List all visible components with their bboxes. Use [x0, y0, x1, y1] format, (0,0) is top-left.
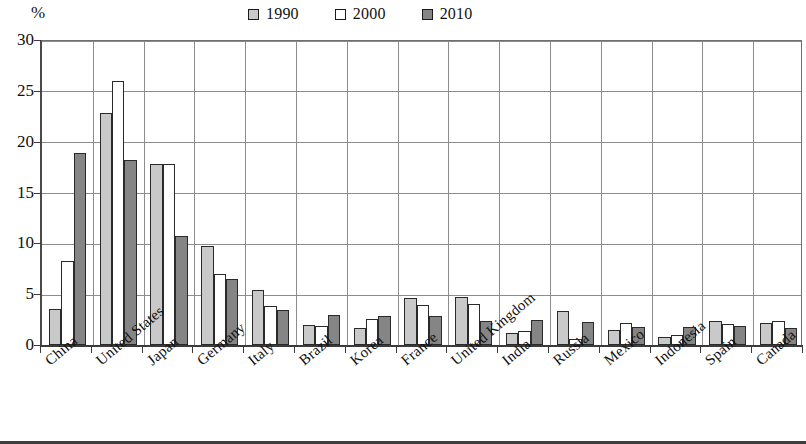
bar	[277, 310, 289, 345]
bar	[455, 297, 467, 345]
legend-entry: 2010	[422, 6, 473, 22]
y-axis-tick-mark	[34, 40, 41, 41]
gridline-vertical	[194, 41, 195, 345]
bar	[49, 309, 61, 345]
x-axis-tick-mark	[650, 345, 651, 353]
bar	[112, 81, 124, 345]
x-axis-tick-mark	[599, 345, 600, 353]
chart-legend: 199020002010	[248, 4, 472, 24]
plot-area	[40, 40, 802, 345]
legend-swatch-icon	[335, 9, 346, 20]
gridline-vertical	[550, 41, 551, 345]
y-axis-tick-mark	[34, 294, 41, 295]
gridline-vertical	[144, 41, 145, 345]
y-axis-tick-label: 0	[0, 335, 34, 355]
y-axis-tick-label: 5	[0, 284, 34, 304]
gridline-horizontal	[42, 41, 801, 42]
gridline-vertical	[93, 41, 94, 345]
bar	[74, 153, 86, 345]
y-axis-tick-mark	[34, 91, 41, 92]
gridline-horizontal	[42, 142, 801, 143]
gridline-vertical	[652, 41, 653, 345]
y-axis-tick-mark	[34, 193, 41, 194]
gridline-vertical	[601, 41, 602, 345]
bar	[404, 298, 416, 345]
x-axis-tick-mark	[91, 345, 92, 353]
bar	[531, 320, 543, 345]
gridline-vertical	[702, 41, 703, 345]
y-axis-tick-label: 10	[0, 233, 34, 253]
legend-label: 2010	[440, 6, 473, 22]
gridline-horizontal	[42, 91, 801, 92]
legend-swatch-icon	[248, 9, 259, 20]
x-axis-tick-mark	[396, 345, 397, 353]
gridline-vertical	[448, 41, 449, 345]
bar	[100, 113, 112, 345]
x-axis-tick-mark	[294, 345, 295, 353]
x-axis-tick-mark	[548, 345, 549, 353]
bar	[175, 236, 187, 345]
x-axis-tick-mark	[40, 345, 41, 353]
x-axis-tick-mark	[446, 345, 447, 353]
legend-entry: 1990	[248, 6, 299, 22]
bar	[61, 261, 73, 345]
x-axis-tick-mark	[142, 345, 143, 353]
bar	[124, 160, 136, 345]
y-axis-tick-mark	[34, 142, 41, 143]
y-axis-tick-label: 15	[0, 183, 34, 203]
legend-swatch-icon	[422, 9, 433, 20]
legend-entry: 2000	[335, 6, 386, 22]
x-axis-tick-mark	[700, 345, 701, 353]
x-axis-tick-mark	[751, 345, 752, 353]
legend-label: 1990	[266, 6, 299, 22]
y-axis-tick-label: 20	[0, 132, 34, 152]
x-axis-tick-mark	[192, 345, 193, 353]
bar-chart: % 199020002010 051015202530 ChinaUnited …	[0, 0, 806, 444]
x-axis-tick-mark	[802, 345, 803, 353]
y-axis-tick-label: 25	[0, 81, 34, 101]
y-axis-tick-label: 30	[0, 30, 34, 50]
gridline-vertical	[398, 41, 399, 345]
gridline-vertical	[296, 41, 297, 345]
legend-label: 2000	[353, 6, 386, 22]
gridline-vertical	[347, 41, 348, 345]
x-axis-tick-mark	[345, 345, 346, 353]
bar	[252, 290, 264, 345]
gridline-vertical	[499, 41, 500, 345]
x-axis-tick-mark	[497, 345, 498, 353]
gridline-vertical	[245, 41, 246, 345]
gridline-vertical	[753, 41, 754, 345]
y-axis-tick-mark	[34, 243, 41, 244]
y-axis-unit-label: %	[31, 3, 45, 23]
x-axis-tick-mark	[243, 345, 244, 353]
bar	[201, 246, 213, 345]
